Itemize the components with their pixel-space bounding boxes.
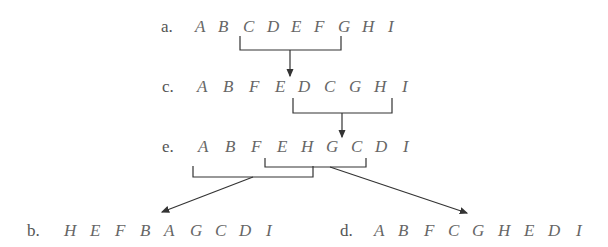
letter: H <box>361 17 376 36</box>
letter: D <box>547 221 561 240</box>
letter: F <box>250 137 262 156</box>
letter: B <box>140 221 151 240</box>
letter: F <box>114 221 126 240</box>
row-label: a. <box>161 17 173 36</box>
bracket-e-right <box>265 158 366 167</box>
letter: I <box>575 221 583 240</box>
letter: B <box>218 17 229 36</box>
letter: D <box>297 77 311 96</box>
letter: F <box>313 17 325 36</box>
letter: I <box>402 137 410 156</box>
row-e: e. A B F E H G C D I <box>162 137 410 156</box>
letter: E <box>523 221 535 240</box>
row-label: c. <box>162 77 174 96</box>
letter: E <box>89 221 101 240</box>
letter: H <box>497 221 512 240</box>
letter: I <box>401 77 409 96</box>
letter: D <box>374 137 388 156</box>
letter: G <box>338 17 350 36</box>
letter: B <box>225 137 236 156</box>
letter: A <box>197 137 209 156</box>
letter: D <box>266 17 280 36</box>
row-c: c. A B F E D C G H I <box>162 77 409 96</box>
row-label: b. <box>27 221 40 240</box>
letter: H <box>63 221 78 240</box>
letter: C <box>215 221 227 240</box>
letter: B <box>398 221 409 240</box>
letter: E <box>290 17 302 36</box>
letter: E <box>274 77 286 96</box>
letter: F <box>423 221 435 240</box>
letter: G <box>326 137 338 156</box>
letter: A <box>194 17 206 36</box>
letter: H <box>373 77 388 96</box>
letter: A <box>196 77 208 96</box>
letter: I <box>387 17 395 36</box>
letter: G <box>190 221 202 240</box>
letter: I <box>265 221 273 240</box>
bracket-e-left <box>193 166 313 177</box>
letter: E <box>276 137 288 156</box>
letter: C <box>448 221 460 240</box>
letter: B <box>223 77 234 96</box>
letter: C <box>351 137 363 156</box>
arrow-e-to-d <box>330 167 467 213</box>
letter: C <box>243 17 255 36</box>
letter: G <box>349 77 361 96</box>
bracket-c <box>293 98 392 113</box>
row-label: d. <box>340 221 353 240</box>
letter: A <box>373 221 385 240</box>
letter: H <box>300 137 315 156</box>
letter: F <box>248 77 260 96</box>
letter: C <box>324 77 336 96</box>
letter: A <box>163 221 175 240</box>
row-a: a. A B C D E F G H I <box>161 17 395 36</box>
bracket-a <box>240 36 341 50</box>
letter: G <box>472 221 484 240</box>
letter: D <box>238 221 252 240</box>
arrow-e-to-b <box>162 177 253 212</box>
row-d: d. A B F C G H E D I <box>340 221 583 240</box>
row-label: e. <box>162 137 174 156</box>
inversion-diagram: a. A B C D E F G H I c. A B F E D C G H … <box>0 0 608 247</box>
row-b: b. H E F B A G C D I <box>27 221 273 240</box>
